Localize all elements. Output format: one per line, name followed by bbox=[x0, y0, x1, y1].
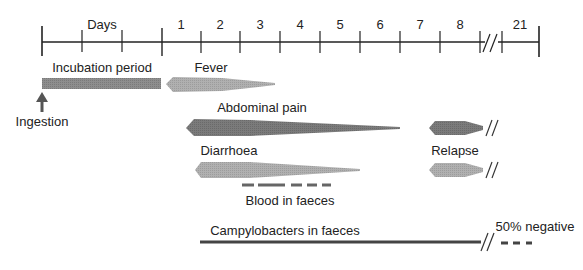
diarrhoea-event: Diarrhoea bbox=[195, 143, 360, 178]
relapse-break-mark bbox=[492, 120, 498, 136]
day-label-5: 5 bbox=[336, 17, 343, 32]
fever-event: Fever bbox=[166, 60, 275, 92]
relapse-event: Relapse bbox=[429, 120, 498, 178]
relapse-abdominal-shape bbox=[429, 121, 483, 135]
relapse-diarrhoea-shape bbox=[429, 163, 483, 177]
incubation-label: Incubation period bbox=[52, 60, 152, 75]
campylobacters-break-mark bbox=[481, 233, 488, 251]
diarrhoea-shape bbox=[195, 162, 360, 178]
time-axis: Days 1 2 3 4 5 6 7 8 21 bbox=[42, 17, 539, 57]
diarrhoea-label: Diarrhoea bbox=[200, 143, 258, 158]
ingestion-marker: Ingestion bbox=[16, 92, 69, 129]
abdominal-pain-shape bbox=[186, 119, 400, 136]
incubation-bar bbox=[42, 78, 161, 89]
relapse-label: Relapse bbox=[431, 143, 479, 158]
day-label-1: 1 bbox=[177, 17, 184, 32]
ingestion-arrow-icon bbox=[36, 92, 48, 102]
day-label-2: 2 bbox=[216, 17, 223, 32]
day-label-21: 21 bbox=[513, 17, 527, 32]
relapse-break-mark bbox=[486, 162, 492, 178]
ingestion-label: Ingestion bbox=[16, 114, 69, 129]
campylobacters-label: Campylobacters in faeces bbox=[210, 223, 360, 238]
relapse-break-mark bbox=[492, 162, 498, 178]
relapse-break-mark bbox=[486, 120, 492, 136]
fever-shape bbox=[166, 77, 275, 92]
incubation-period: Incubation period bbox=[42, 60, 161, 89]
day-label-7: 7 bbox=[416, 17, 423, 32]
day-label-8: 8 bbox=[456, 17, 463, 32]
abdominal-pain-event: Abdominal pain bbox=[186, 100, 400, 136]
day-label-3: 3 bbox=[256, 17, 263, 32]
axis-unit-label: Days bbox=[87, 17, 117, 32]
campylobacters-break-mark bbox=[487, 233, 494, 251]
blood-in-faeces-event: Blood in faeces bbox=[242, 185, 335, 208]
abdominal-pain-label: Abdominal pain bbox=[217, 100, 307, 115]
day-label-6: 6 bbox=[376, 17, 383, 32]
blood-label: Blood in faeces bbox=[246, 193, 335, 208]
fever-label: Fever bbox=[194, 60, 228, 75]
clinical-course-diagram: Days 1 2 3 4 5 6 7 8 21 Incubation perio… bbox=[0, 0, 583, 270]
negative-label: 50% negative bbox=[496, 219, 575, 234]
campylobacters-event: Campylobacters in faeces 50% negative bbox=[200, 219, 574, 251]
day-label-4: 4 bbox=[296, 17, 303, 32]
